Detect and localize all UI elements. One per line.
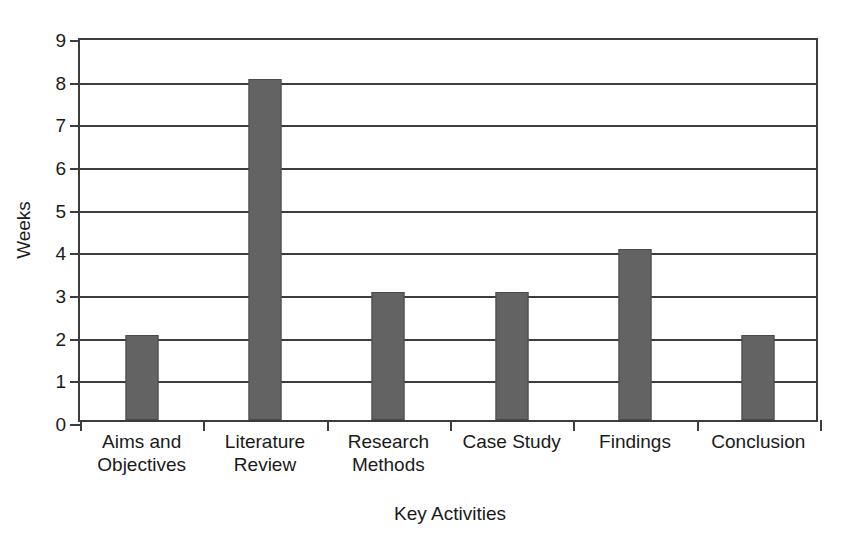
y-axis-tick-label-text: 1 xyxy=(55,372,66,391)
bar-slot xyxy=(697,40,820,420)
bar[interactable] xyxy=(125,335,158,420)
y-axis-tick-label: 0 xyxy=(55,415,66,434)
bar-slot xyxy=(450,40,573,420)
x-axis-tick xyxy=(450,420,452,431)
y-axis-tick xyxy=(70,83,80,85)
y-axis-tick-label-text: 0 xyxy=(55,415,66,434)
y-axis-tick-label: 4 xyxy=(55,244,66,263)
x-axis-tick-label-line: Methods xyxy=(348,453,429,476)
bars xyxy=(80,40,816,420)
bar-chart: Weeks 0123456789 Aims andObjectivesLiter… xyxy=(0,0,842,548)
bar[interactable] xyxy=(495,292,528,420)
y-axis-tick xyxy=(70,125,80,127)
x-axis-tick-label: Case Study xyxy=(463,430,561,453)
y-axis-tick xyxy=(70,424,80,426)
y-axis-tick xyxy=(70,211,80,213)
y-axis-tick-label: 5 xyxy=(55,201,66,220)
bar[interactable] xyxy=(742,335,775,420)
y-axis-tick-label-text: 7 xyxy=(55,116,66,135)
y-axis-tick-label-text: 9 xyxy=(55,31,66,50)
y-axis-tick-label: 7 xyxy=(55,116,66,135)
x-axis-tick xyxy=(573,420,575,431)
x-axis-tick-label-line: Literature xyxy=(225,430,305,453)
x-axis-tick-label-line: Case Study xyxy=(463,430,561,453)
x-axis-tick xyxy=(327,420,329,431)
x-axis-title: Key Activities xyxy=(394,503,506,525)
y-axis-tick-label: 8 xyxy=(55,73,66,92)
y-axis-tick-label: 1 xyxy=(55,372,66,391)
x-axis-tick xyxy=(820,420,822,431)
bar[interactable] xyxy=(618,249,651,420)
y-axis-tick-label-text: 6 xyxy=(55,159,66,178)
x-axis-tick-label-line: Research xyxy=(348,430,429,453)
y-axis-tick-label-text: 5 xyxy=(55,201,66,220)
y-axis-tick-label: 3 xyxy=(55,287,66,306)
y-axis-tick xyxy=(70,253,80,255)
x-axis-tick-label-line: Aims and xyxy=(97,430,186,453)
y-axis-title: Weeks xyxy=(13,201,35,259)
x-axis-tick-label-line: Objectives xyxy=(97,453,186,476)
bar[interactable] xyxy=(248,79,281,420)
x-axis-tick-label: Aims andObjectives xyxy=(97,430,186,476)
plot-area: 0123456789 Aims andObjectivesLiteratureR… xyxy=(78,38,818,422)
bar-slot xyxy=(573,40,696,420)
y-axis-tick xyxy=(70,40,80,42)
x-axis-tick-label: Findings xyxy=(599,430,671,453)
y-axis-tick-label: 6 xyxy=(55,159,66,178)
y-axis-tick xyxy=(70,296,80,298)
y-axis-tick-label: 2 xyxy=(55,329,66,348)
y-axis-tick-label-text: 8 xyxy=(55,73,66,92)
x-axis-tick-label: LiteratureReview xyxy=(225,430,305,476)
y-axis-tick xyxy=(70,339,80,341)
bar[interactable] xyxy=(372,292,405,420)
x-axis-tick-label-line: Findings xyxy=(599,430,671,453)
y-axis-tick xyxy=(70,168,80,170)
bar-slot xyxy=(327,40,450,420)
x-axis-tick-label-line: Conclusion xyxy=(711,430,805,453)
x-axis-tick xyxy=(697,420,699,431)
x-axis-tick xyxy=(80,420,82,431)
x-axis-tick-label: ResearchMethods xyxy=(348,430,429,476)
y-axis-tick xyxy=(70,381,80,383)
y-axis-tick-label-text: 3 xyxy=(55,287,66,306)
y-axis-tick-label: 9 xyxy=(55,31,66,50)
y-axis-tick-label-text: 2 xyxy=(55,329,66,348)
x-axis-tick-label: Conclusion xyxy=(711,430,805,453)
x-axis-tick xyxy=(203,420,205,431)
bar-slot xyxy=(203,40,326,420)
y-axis-tick-label-text: 4 xyxy=(55,244,66,263)
x-axis-tick-label-line: Review xyxy=(225,453,305,476)
bar-slot xyxy=(80,40,203,420)
